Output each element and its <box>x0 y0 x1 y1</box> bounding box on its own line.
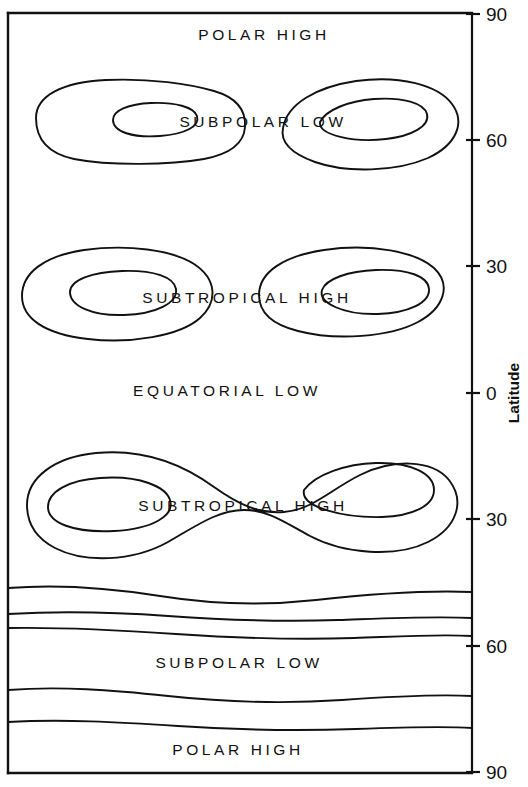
axis-tick-label-90n: 90 <box>486 4 507 25</box>
pressure-belt-diagram: 90 60 30 0 30 60 90 Latitude <box>0 0 528 787</box>
band-label-polar-high-north: POLAR HIGH <box>198 26 330 43</box>
band-label-subpolar-low-south: SUBPOLAR LOW <box>155 654 322 671</box>
contour-zonal-band-4 <box>8 688 472 702</box>
band-label-polar-high-south: POLAR HIGH <box>172 741 304 758</box>
axis-tick-label-90s: 90 <box>486 762 507 783</box>
latitude-axis: 90 60 30 0 30 60 90 Latitude <box>466 4 522 783</box>
axis-tick-label-60n: 60 <box>486 130 507 151</box>
contour-zonal-band-1 <box>8 586 472 603</box>
axis-tick-label-0: 0 <box>486 383 497 404</box>
axis-tick-label-30s: 30 <box>486 509 507 530</box>
axis-tick-label-30n: 30 <box>486 256 507 277</box>
band-label-equatorial-low: EQUATORIAL LOW <box>133 382 321 399</box>
contour-zonal-band-3 <box>8 628 472 639</box>
axis-title-latitude: Latitude <box>505 362 522 423</box>
axis-tick-label-60s: 60 <box>486 636 507 657</box>
contour-zonal-band-5 <box>8 721 472 730</box>
diagram-canvas: 90 60 30 0 30 60 90 Latitude <box>0 0 528 787</box>
band-label-subtropical-high-south: SUBTROPICAL HIGH <box>138 497 347 514</box>
band-label-subtropical-high-north: SUBTROPICAL HIGH <box>142 289 351 306</box>
band-label-subpolar-low-north: SUBPOLAR LOW <box>179 113 346 130</box>
contour-zonal-band-2 <box>8 612 472 621</box>
